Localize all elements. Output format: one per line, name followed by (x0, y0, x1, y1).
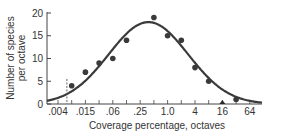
y-axis-title: Number of species per octave (5, 16, 27, 99)
data-point (192, 65, 198, 71)
data-point (124, 38, 130, 44)
x-tick-label: 1.0 (161, 106, 175, 117)
x-tick-label: .015 (76, 106, 96, 117)
y-tick-label: 5 (37, 76, 43, 87)
x-tick-label: .25 (133, 106, 147, 117)
y-axis-title-line-1: Number of species (5, 16, 16, 99)
x-tick-label: 4 (192, 106, 198, 117)
data-point (151, 15, 157, 21)
data-point (206, 78, 212, 84)
fitted-curve (47, 22, 262, 103)
data-point (69, 83, 75, 89)
data-point (83, 69, 89, 75)
data-point (233, 97, 239, 103)
y-axis-title-line-2: per octave (16, 34, 27, 81)
data-points (69, 15, 239, 104)
x-tick-label: 64 (244, 106, 256, 117)
x-axis-title: Coverage percentage, octaves (89, 120, 225, 131)
data-point (110, 56, 116, 62)
x-tick-label: .06 (106, 106, 120, 117)
x-tick-label: 16 (217, 106, 229, 117)
y-tick-label: 0 (37, 99, 43, 110)
data-point (96, 60, 102, 66)
fitted-curve-line (47, 22, 262, 103)
x-tick-label: .004 (48, 106, 68, 117)
y-tick-label: 10 (32, 53, 44, 64)
y-axis: 05101520 (32, 8, 51, 110)
x-axis: .004.015.06.251.041664 (47, 100, 262, 117)
data-point-triangle (219, 100, 225, 104)
data-point (165, 33, 171, 39)
data-point (179, 38, 185, 44)
y-tick-label: 20 (32, 8, 44, 19)
y-tick-label: 15 (32, 30, 44, 41)
species-abundance-chart: Number of species per octave 05101520 .0… (0, 0, 283, 137)
